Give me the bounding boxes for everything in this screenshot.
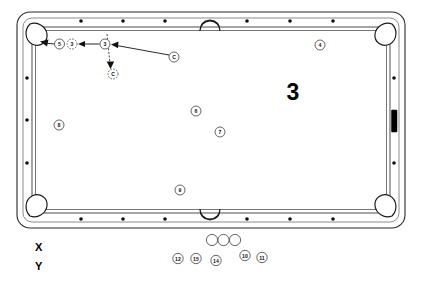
rack-ball-15-label: 15 [193, 256, 199, 262]
ball-9-label: 9 [179, 187, 182, 193]
cue-blank-1-circle[interactable] [206, 234, 217, 245]
diamond-bottom-4 [245, 217, 249, 221]
diamond-top-3 [163, 19, 167, 23]
diamond-top-5 [288, 19, 292, 23]
diamond-bottom-2 [121, 217, 125, 221]
off-table-numbered-balls: 12 15 14 10 11 [173, 250, 267, 265]
ball-7-label: 7 [219, 129, 222, 135]
diamond-bottom-6 [331, 217, 335, 221]
right-rail-side-marker [392, 110, 398, 132]
table-bed [32, 27, 390, 213]
ball-8[interactable]: 8 [54, 120, 64, 130]
ball-4[interactable]: 4 [315, 40, 325, 50]
rack-ball-10-label: 10 [242, 253, 248, 259]
rack-ball-10[interactable]: 10 [240, 250, 250, 260]
rack-ball-14[interactable]: 14 [211, 255, 221, 265]
cue-blank-3-circle[interactable] [229, 234, 240, 245]
rack-ball-12-label: 12 [175, 256, 181, 262]
cue-blank-2-circle[interactable] [218, 234, 229, 245]
ball-9[interactable]: 9 [175, 185, 185, 195]
diamond-left-2 [25, 118, 29, 122]
diamond-top-6 [331, 19, 335, 23]
bed-surface [32, 27, 390, 213]
rack-ball-15[interactable]: 15 [191, 253, 201, 263]
ball-7[interactable]: 7 [215, 127, 225, 137]
ball-6[interactable]: 6 [191, 106, 201, 116]
diamond-bottom-3 [163, 217, 167, 221]
ball-cue-ghost[interactable]: C [108, 69, 118, 79]
pool-table-diagram: 5 3 3 C C 4 [0, 0, 421, 283]
diamond-top-2 [121, 19, 125, 23]
ball-6-label: 6 [195, 108, 198, 114]
rack-ball-12[interactable]: 12 [173, 253, 183, 263]
figure-number: 3 [287, 79, 300, 105]
rack-ball-11-label: 11 [259, 255, 265, 261]
axis-y-label: Y [35, 260, 43, 272]
ball-cue-ghost-label: C [111, 71, 115, 77]
ball-8-label: 8 [58, 122, 61, 128]
diamond-top-1 [79, 19, 83, 23]
diamond-bottom-5 [288, 217, 292, 221]
diamond-left-3 [25, 161, 29, 165]
rack-ball-11[interactable]: 11 [257, 252, 267, 262]
ball-cue[interactable]: C [169, 52, 179, 62]
diamond-right-1 [392, 76, 396, 80]
ball-3[interactable]: 3 [100, 39, 110, 49]
ball-4-label: 4 [319, 42, 322, 48]
ball-5-label: 5 [58, 41, 61, 47]
diamond-bottom-1 [79, 217, 83, 221]
rack-ball-14-label: 14 [213, 258, 219, 264]
axis-x-label: X [35, 241, 43, 253]
ball-3-ghost[interactable]: 3 [67, 39, 77, 49]
diagram-stage: 5 3 3 C C 4 [0, 0, 421, 283]
ball-cue-label: C [172, 54, 176, 60]
diamond-left-1 [25, 76, 29, 80]
ball-3-label: 3 [104, 41, 107, 47]
diamond-top-4 [245, 19, 249, 23]
ball-3-ghost-label: 3 [71, 41, 74, 47]
ball-5[interactable]: 5 [55, 39, 65, 49]
off-table-plain-circles [206, 234, 240, 245]
diamond-right-3 [392, 161, 396, 165]
